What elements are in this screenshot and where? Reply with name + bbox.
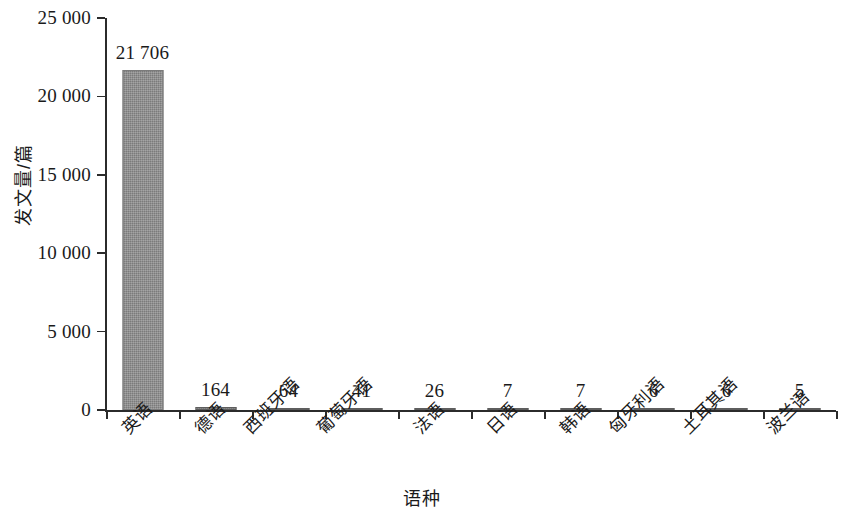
bar-value-label: 26: [425, 381, 444, 400]
bar-value-label: 7: [503, 381, 513, 400]
bar-value-label: 7: [576, 381, 586, 400]
bar-slot: 64: [252, 18, 325, 410]
plot-area: 21 70616464412677665: [106, 18, 836, 410]
bar-value-label: 164: [201, 380, 230, 399]
y-axis-tick-mark: [97, 17, 105, 19]
y-axis-tick-mark: [97, 331, 105, 333]
y-axis-tick-mark: [97, 409, 105, 411]
y-axis-tick-label: 5 000: [5, 322, 91, 341]
bar-slot: 21 706: [106, 18, 179, 410]
y-axis-tick-mark: [97, 96, 105, 98]
bar-slot: 6: [690, 18, 763, 410]
x-axis-tick-mark: [179, 411, 181, 419]
y-axis-tick-label: 25 000: [5, 8, 91, 27]
x-axis-tick-mark: [398, 411, 400, 419]
x-axis-tick-mark: [763, 411, 765, 419]
bar-slot: 7: [544, 18, 617, 410]
y-axis-tick-label: 10 000: [5, 243, 91, 262]
y-axis-tick-mark: [97, 252, 105, 254]
y-axis-tick-mark: [97, 174, 105, 176]
x-axis-tick-mark: [544, 411, 546, 419]
x-axis-tick-mark: [836, 411, 838, 419]
x-axis-title: 语种: [0, 489, 843, 509]
bar-value-label: 21 706: [116, 43, 169, 62]
bar-slot: 164: [179, 18, 252, 410]
y-axis-title: 发文量/篇: [14, 115, 34, 255]
bar[interactable]: [122, 70, 163, 410]
bar-slot: 7: [471, 18, 544, 410]
x-axis-tick-mark: [471, 411, 473, 419]
bar-slot: 41: [325, 18, 398, 410]
bar-slot: 5: [763, 18, 836, 410]
x-axis-tick-mark: [106, 411, 108, 419]
y-axis-tick-label: 15 000: [5, 165, 91, 184]
bar-slot: 6: [617, 18, 690, 410]
bar-chart: 发文量/篇 05 00010 00015 00020 00025 000 21 …: [0, 0, 843, 518]
y-axis-tick-label: 20 000: [5, 86, 91, 105]
y-axis-tick-label: 0: [5, 400, 91, 419]
bar-slot: 26: [398, 18, 471, 410]
